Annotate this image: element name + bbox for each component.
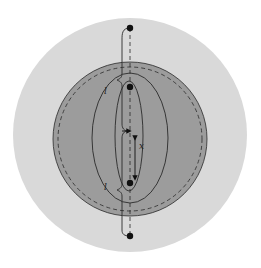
diagram-canvas: l l x <box>0 0 261 268</box>
separation-label: x <box>139 141 144 151</box>
upper-brace-label: l <box>104 86 107 96</box>
diagram-svg: l l x <box>0 0 261 268</box>
lower-brace-label: l <box>104 182 107 192</box>
upper-interior-charge-dot <box>127 84 133 90</box>
bottom-exterior-charge-dot <box>127 233 133 239</box>
lower-interior-charge-dot <box>127 180 133 186</box>
top-exterior-charge-dot <box>127 25 133 31</box>
